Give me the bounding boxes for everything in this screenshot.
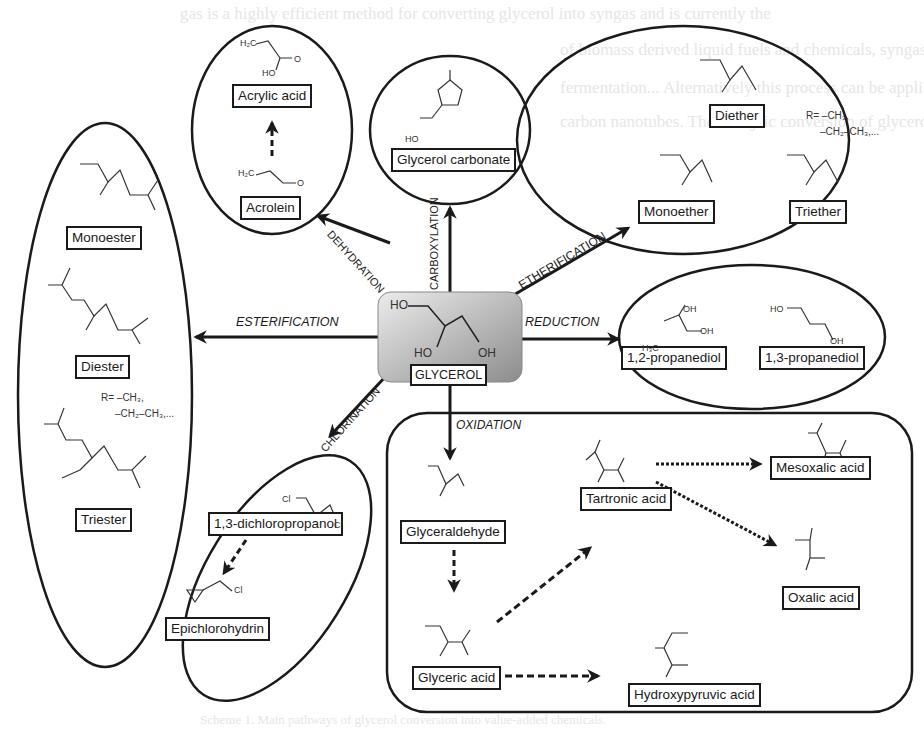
atom-label: H₂C (238, 168, 255, 178)
product-acrolein: Acrolein (240, 196, 301, 220)
atom-label: HO (770, 304, 784, 314)
product-diester: Diester (75, 355, 130, 379)
product-hydroxypyruvic-acid: Hydroxypyruvic acid (628, 683, 761, 707)
product-epichlorohydrin: Epichlorohydrin (165, 617, 270, 641)
atom-label: OH (478, 346, 496, 360)
atom-label: OH (683, 304, 697, 314)
atom-label: HO (390, 298, 408, 312)
product-glyceric-acid: Glyceric acid (412, 666, 501, 690)
chlorination-ellipse (145, 424, 410, 730)
atom-label: HO (414, 346, 432, 360)
r-group-note: R= –CH₃, (806, 110, 849, 121)
product-triether: Triether (789, 200, 847, 224)
atom-label: OH (700, 326, 714, 336)
r-group-note: R= –CH₃, (101, 392, 144, 403)
reaction-label-esterification: ESTERIFICATION (236, 315, 339, 329)
product-triester: Triester (75, 508, 132, 532)
reaction-label-reduction: REDUCTION (525, 315, 599, 329)
product-1-3-dichloropropanol: 1,3-dichloropropanol (208, 512, 343, 536)
atom-label: H₂C (240, 38, 257, 48)
product-acrylic-acid: Acrylic acid (232, 84, 312, 108)
product-1-3-propanediol: 1,3-propanediol (759, 346, 865, 370)
atom-label: Cl (234, 585, 243, 595)
atom-label: Cl (282, 494, 291, 504)
glycerol-label: GLYCEROL (410, 364, 487, 386)
product-diether: Diether (709, 104, 765, 128)
atom-label: O (294, 54, 301, 64)
product-monoester: Monoester (66, 226, 142, 250)
product-monoether: Monoether (638, 200, 715, 224)
reaction-label-carboxylation: CARBOXYLATION (428, 197, 440, 290)
product-oxalic-acid: Oxalic acid (782, 586, 860, 610)
product-tartronic-acid: Tartronic acid (580, 487, 672, 511)
atom-label: OH (830, 336, 844, 346)
r-group-note: –CH₂–CH₃,... (820, 126, 879, 137)
atom-label: HO (405, 134, 419, 144)
product-1-2-propanediol: 1,2-propanediol (621, 346, 727, 370)
product-mesoxalic-acid: Mesoxalic acid (770, 456, 871, 480)
reaction-label-oxidation: OXIDATION (456, 418, 521, 432)
product-glycerol-carbonate: Glycerol carbonate (391, 148, 516, 172)
product-glyceraldehyde: Glyceraldehyde (400, 520, 506, 544)
r-group-note: –CH₂–CH₃,... (115, 408, 174, 419)
atom-label: HO (262, 68, 276, 78)
atom-label: Cl (334, 520, 343, 530)
atom-label: O (297, 178, 304, 188)
atom-label: H₃C (642, 343, 659, 353)
reduction-ellipse (619, 265, 885, 409)
